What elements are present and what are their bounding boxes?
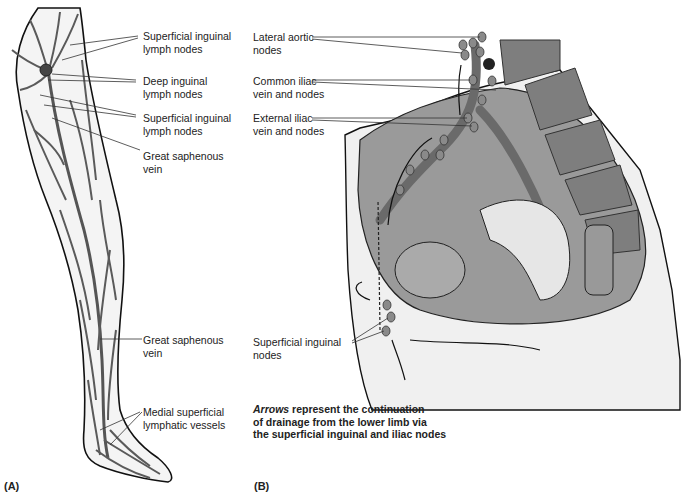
- label-line: lymph nodes: [143, 125, 231, 138]
- label-superficial-inguinal-lymph-nodes-upper: Superficial inguinal lymph nodes: [143, 30, 231, 55]
- label-superficial-inguinal-lymph-nodes-lower: Superficial inguinal lymph nodes: [143, 112, 231, 137]
- label-line: Common iliac: [253, 75, 324, 88]
- label-superficial-inguinal-nodes: Superficial inguinal nodes: [253, 336, 341, 361]
- figure-caption: Arrows represent the continuation of dra…: [253, 403, 446, 441]
- label-line: nodes: [253, 44, 314, 57]
- panel-tag-b: (B): [254, 480, 269, 492]
- label-line: Superficial inguinal: [143, 112, 231, 125]
- caption-line-3: the superficial inguinal and iliac nodes: [253, 428, 446, 441]
- label-line: Great saphenous: [143, 150, 224, 163]
- label-line: vein and nodes: [253, 125, 324, 138]
- label-line: Medial superficial: [143, 406, 225, 419]
- label-great-saphenous-vein-upper: Great saphenous vein: [143, 150, 224, 175]
- label-line: vein and nodes: [253, 88, 324, 101]
- label-line: vein: [143, 163, 224, 176]
- label-line: lymph nodes: [143, 43, 231, 56]
- label-line: vein: [143, 347, 224, 360]
- label-line: nodes: [253, 349, 341, 362]
- label-line: Superficial inguinal: [143, 30, 231, 43]
- caption-text: represent the continuation: [289, 403, 424, 415]
- label-external-iliac-vein-and-nodes: External iliac vein and nodes: [253, 112, 324, 137]
- caption-emphasis: Arrows: [253, 403, 289, 415]
- caption-line-2: of drainage from the lower limb via: [253, 416, 446, 429]
- label-line: lymph nodes: [143, 88, 207, 101]
- label-line: Superficial inguinal: [253, 336, 341, 349]
- label-common-iliac-vein-and-nodes: Common iliac vein and nodes: [253, 75, 324, 100]
- label-lateral-aortic-nodes: Lateral aortic nodes: [253, 31, 314, 56]
- label-line: lymphatic vessels: [143, 419, 225, 432]
- label-great-saphenous-vein-lower: Great saphenous vein: [143, 334, 224, 359]
- pelvis-illustration: [345, 32, 680, 410]
- label-line: Deep inguinal: [143, 75, 207, 88]
- label-deep-inguinal-lymph-nodes: Deep inguinal lymph nodes: [143, 75, 207, 100]
- caption-line-1: Arrows represent the continuation: [253, 403, 446, 416]
- label-line: Great saphenous: [143, 334, 224, 347]
- label-line: Lateral aortic: [253, 31, 314, 44]
- label-line: External iliac: [253, 112, 324, 125]
- label-medial-superficial-lymphatic-vessels: Medial superficial lymphatic vessels: [143, 406, 225, 431]
- panel-tag-a: (A): [4, 480, 19, 492]
